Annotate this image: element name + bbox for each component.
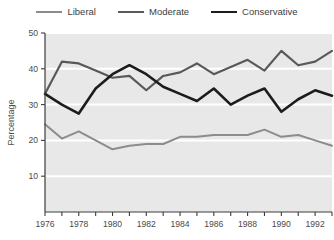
y-tick-label: 50 <box>28 28 38 38</box>
x-tick-label: 1976 <box>35 219 54 229</box>
x-tick-label: 1986 <box>204 219 223 229</box>
line-swatch-icon <box>118 11 144 13</box>
legend-item-moderate[interactable]: Moderate <box>118 7 189 17</box>
plot-svg: 1020304050197619781980198219841986198819… <box>0 24 334 240</box>
x-tick-label: 1984 <box>170 219 189 229</box>
legend-label-moderate: Moderate <box>149 7 189 17</box>
y-tick-label: 40 <box>28 64 38 74</box>
legend-item-conservative[interactable]: Conservative <box>211 7 297 17</box>
y-tick-label: 20 <box>28 135 38 145</box>
legend-label-liberal: Liberal <box>67 7 96 17</box>
plot-background <box>45 33 332 212</box>
plot-area-wrapper: 1020304050197619781980198219841986198819… <box>0 24 334 240</box>
chart-legend: Liberal Moderate Conservative <box>0 0 334 24</box>
x-tick-label: 1990 <box>272 219 291 229</box>
plot-background-group <box>45 33 332 212</box>
y-axis-title: Percentage <box>6 99 16 145</box>
x-tick-label: 1978 <box>69 219 88 229</box>
x-tick-label: 1982 <box>137 219 156 229</box>
x-tick-label: 1980 <box>103 219 122 229</box>
legend-label-conservative: Conservative <box>242 7 297 17</box>
legend-item-liberal[interactable]: Liberal <box>36 7 96 17</box>
x-tick-label: 1988 <box>238 219 257 229</box>
y-tick-label: 10 <box>28 171 38 181</box>
line-swatch-icon <box>36 11 62 13</box>
y-tick-label: 30 <box>28 100 38 110</box>
y-axis-title-group: Percentage <box>6 99 16 145</box>
line-swatch-icon <box>211 11 237 13</box>
x-tick-label: 1992 <box>306 219 325 229</box>
line-chart: Liberal Moderate Conservative 1020304050… <box>0 0 334 240</box>
